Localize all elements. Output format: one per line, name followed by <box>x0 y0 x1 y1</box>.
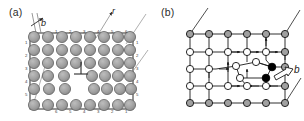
figure-container: (a) (b) <box>0 0 304 121</box>
svg-text:3: 3 <box>25 66 28 71</box>
svg-text:6: 6 <box>55 109 58 114</box>
svg-text:3: 3 <box>136 66 139 71</box>
panel-a-b-label: b <box>41 18 46 28</box>
svg-text:2: 2 <box>136 53 139 58</box>
svg-text:1: 1 <box>25 40 28 45</box>
panel-b-node-lattice <box>186 30 288 106</box>
svg-text:5: 5 <box>25 92 28 97</box>
panel-a-atom-lattice <box>28 31 136 110</box>
svg-text:1: 1 <box>136 40 139 45</box>
panel-b-b-label: b <box>294 64 300 75</box>
panel-a-r-label: r <box>112 6 115 16</box>
svg-text:3: 3 <box>97 109 100 114</box>
svg-text:4: 4 <box>136 79 139 84</box>
svg-text:2: 2 <box>25 53 28 58</box>
svg-text:5: 5 <box>136 92 139 97</box>
panel-b-group <box>186 8 301 107</box>
svg-text:4: 4 <box>83 109 86 114</box>
svg-text:2: 2 <box>111 109 114 114</box>
svg-text:5: 5 <box>69 109 72 114</box>
svg-text:4: 4 <box>25 79 28 84</box>
